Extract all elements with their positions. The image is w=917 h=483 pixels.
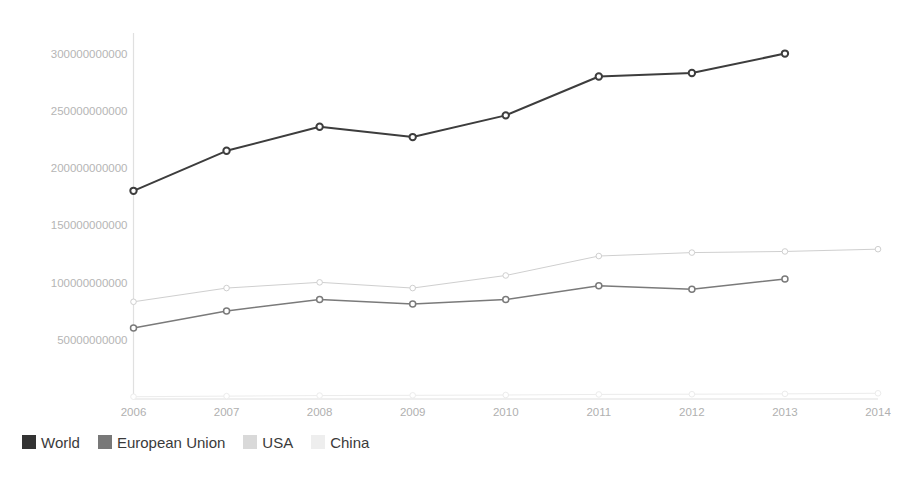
legend-label: World <box>41 435 80 450</box>
data-point-marker <box>782 249 788 255</box>
data-point-marker <box>223 148 229 154</box>
data-point-marker <box>689 70 695 76</box>
x-tick-label: 2006 <box>104 406 164 418</box>
legend-item-european-union[interactable]: European Union <box>98 435 225 450</box>
data-point-marker <box>689 286 695 292</box>
line-chart: 5000000000010000000000015000000000020000… <box>0 0 917 483</box>
data-point-marker <box>503 112 509 118</box>
data-point-marker <box>410 301 416 307</box>
data-point-marker <box>224 285 230 291</box>
y-tick-label: 50000000000 <box>57 334 127 346</box>
data-point-marker <box>410 285 416 291</box>
data-point-marker <box>503 392 509 398</box>
x-tick-label: 2007 <box>197 406 257 418</box>
series-line-world <box>134 54 785 191</box>
x-tick-label: 2009 <box>383 406 443 418</box>
data-point-marker <box>317 296 323 302</box>
legend-swatch-icon <box>22 435 36 449</box>
data-point-marker <box>782 50 788 56</box>
legend-swatch-icon <box>243 435 257 449</box>
data-point-marker <box>410 393 416 399</box>
data-point-marker <box>317 393 323 399</box>
x-tick-label: 2012 <box>662 406 722 418</box>
data-point-marker <box>317 280 323 286</box>
x-tick-label: 2013 <box>755 406 815 418</box>
legend-swatch-icon <box>311 435 325 449</box>
data-point-marker <box>782 276 788 282</box>
data-point-marker <box>224 393 230 399</box>
y-tick-label: 250000000000 <box>51 105 128 117</box>
series-line-european-union <box>134 279 785 328</box>
data-point-marker <box>875 390 881 396</box>
data-point-marker <box>131 299 137 305</box>
data-point-marker <box>689 250 695 256</box>
y-tick-label: 200000000000 <box>51 162 128 174</box>
legend-swatch-icon <box>98 435 112 449</box>
x-tick-label: 2014 <box>848 406 908 418</box>
data-point-marker <box>503 296 509 302</box>
chart-legend: WorldEuropean UnionUSAChina <box>22 430 387 454</box>
legend-item-china[interactable]: China <box>311 435 369 450</box>
x-tick-label: 2008 <box>290 406 350 418</box>
data-point-marker <box>596 253 602 259</box>
data-point-marker <box>409 134 415 140</box>
data-point-marker <box>596 283 602 289</box>
legend-label: China <box>330 435 369 450</box>
legend-label: European Union <box>117 435 225 450</box>
axis-lines <box>134 33 879 399</box>
data-point-marker <box>131 394 137 400</box>
chart-plot-area <box>0 0 917 420</box>
data-point-marker <box>131 325 137 331</box>
data-point-marker <box>503 273 509 279</box>
data-point-marker <box>596 392 602 398</box>
data-point-marker <box>224 308 230 314</box>
y-tick-label: 150000000000 <box>51 219 128 231</box>
y-tick-label: 100000000000 <box>51 277 128 289</box>
y-tick-label: 300000000000 <box>51 48 128 60</box>
legend-item-usa[interactable]: USA <box>243 435 293 450</box>
x-tick-label: 2010 <box>476 406 536 418</box>
legend-item-world[interactable]: World <box>22 435 80 450</box>
data-point-marker <box>689 391 695 397</box>
series-lines <box>130 50 881 399</box>
legend-label: USA <box>262 435 293 450</box>
x-tick-label: 2011 <box>569 406 629 418</box>
data-point-marker <box>130 188 136 194</box>
data-point-marker <box>316 124 322 130</box>
data-point-marker <box>782 391 788 397</box>
data-point-marker <box>875 246 881 252</box>
data-point-marker <box>596 73 602 79</box>
